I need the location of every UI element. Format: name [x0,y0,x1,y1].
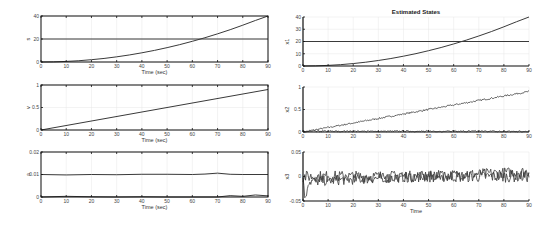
figure: 010203040506070809002040Time (sec)s 0102… [0,0,554,225]
y-tick-label: 1 [36,82,39,88]
y-axis-label: x3 [284,174,290,180]
y-tick-label: 0.5 [294,106,301,112]
y-axis-label: x1 [284,39,290,45]
x-tick-label: 30 [114,198,120,204]
x-tick-label: 10 [325,67,331,73]
y-tick-label: 20 [33,36,39,42]
x-tick-label: 70 [476,202,482,208]
y-tick-label: 0 [298,129,301,135]
x-tick-label: 30 [114,131,120,137]
y-tick-label: 0.02 [29,149,39,155]
y-axis-label: x2 [284,107,290,113]
y-tick-label: -0.05 [290,198,302,204]
x-tick-label: 0 [302,67,305,73]
chart-title: Estimated States [392,9,441,15]
y-tick-label: 40 [295,14,301,20]
x-tick-label: 20 [350,67,356,73]
subplot-right-2: 010203040506070809000.51x2 [284,84,532,139]
x-tick-label: 40 [401,133,407,139]
x-tick-label: 90 [265,131,271,137]
x-tick-label: 60 [190,198,196,204]
y-tick-label: 10 [295,51,301,57]
x-tick-label: 20 [350,202,356,208]
x-axis-label: Time (sec) [142,204,168,210]
x-axis-label: Time (sec) [142,137,168,143]
x-tick-label: 0 [40,63,43,69]
x-tick-label: 40 [401,67,407,73]
x-tick-label: 10 [63,63,69,69]
subplot-left-2: 010203040506070809000.51Time (sec)v [25,82,271,143]
x-tick-label: 70 [215,131,221,137]
x-tick-label: 70 [215,198,221,204]
x-tick-label: 10 [325,202,331,208]
x-tick-label: 80 [240,198,246,204]
y-tick-label: 0 [36,59,39,65]
y-tick-label: 0 [298,173,301,179]
x-tick-label: 80 [501,133,507,139]
y-tick-label: 30 [295,26,301,32]
x-tick-label: 0 [302,133,305,139]
x-axis-label: Time [410,208,422,214]
y-axis-label: v [25,106,31,109]
x-tick-label: 10 [63,131,69,137]
x-tick-label: 70 [476,133,482,139]
x-tick-label: 80 [501,67,507,73]
y-tick-label: 0 [36,194,39,200]
x-tick-label: 0 [40,131,43,137]
y-tick-label: 1 [298,84,301,90]
x-tick-label: 60 [451,133,457,139]
x-tick-label: 90 [265,198,271,204]
x-tick-label: 60 [451,67,457,73]
x-tick-label: 0 [40,198,43,204]
x-tick-label: 50 [426,133,432,139]
x-tick-label: 30 [376,67,382,73]
subplot-left-1: 010203040506070809002040Time (sec)s [25,13,271,75]
x-tick-label: 20 [89,63,95,69]
x-tick-label: 90 [265,63,271,69]
y-tick-label: 20 [295,38,301,44]
x-tick-label: 30 [114,63,120,69]
x-tick-label: 60 [451,202,457,208]
x-tick-label: 30 [376,133,382,139]
x-tick-label: 80 [240,63,246,69]
subplot-right-1: 0102030405060708090010203040x1Estimated … [284,9,532,73]
x-tick-label: 80 [501,202,507,208]
y-tick-label: 0.05 [291,149,301,155]
x-tick-label: 20 [89,198,95,204]
subplot-left-3: 010203040506070809000.010.02Time (sec)a [25,149,271,210]
x-tick-label: 50 [426,202,432,208]
x-tick-label: 90 [526,133,532,139]
x-tick-label: 30 [376,202,382,208]
x-tick-label: 10 [63,198,69,204]
y-tick-label: 0 [36,127,39,133]
x-tick-label: 90 [526,67,532,73]
subplot-right-3: 0102030405060708090-0.0500.05Timex3 [284,149,532,214]
x-tick-label: 70 [215,63,221,69]
x-tick-label: 60 [190,63,196,69]
x-tick-label: 60 [190,131,196,137]
x-tick-label: 90 [526,202,532,208]
y-tick-label: 40 [33,13,39,19]
y-tick-label: 0.5 [32,104,39,110]
x-tick-label: 10 [325,133,331,139]
x-tick-label: 70 [476,67,482,73]
y-tick-label: 0 [298,63,301,69]
x-tick-label: 0 [302,202,305,208]
x-tick-label: 20 [89,131,95,137]
y-axis-label: s [25,37,31,40]
x-tick-label: 50 [426,67,432,73]
x-axis-label: Time (sec) [142,69,168,75]
x-tick-label: 80 [240,131,246,137]
x-tick-label: 40 [401,202,407,208]
x-tick-label: 20 [350,133,356,139]
